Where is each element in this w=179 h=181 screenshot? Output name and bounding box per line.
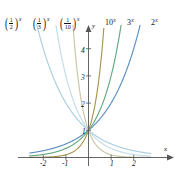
y-tick-label-3: 3: [81, 74, 85, 82]
x-tick-label-2: 2: [132, 160, 136, 168]
fraction-denominator: 3: [37, 23, 41, 30]
curve-group: [30, 24, 151, 157]
paren-open-tenth: (: [60, 18, 63, 29]
curve-label-one-third: ( 1 3 ) x: [32, 17, 49, 30]
curve-label-two: 2x: [151, 19, 158, 27]
paren-close-third: ): [43, 18, 46, 29]
y-axis-arrow: [86, 25, 92, 32]
exponent-tenth: x: [77, 17, 79, 23]
exponent-ten: x: [113, 17, 115, 23]
paren-close-half: ): [15, 18, 18, 29]
y-tick-label-2: 2: [81, 101, 85, 109]
curve-13x: [56, 26, 151, 156]
fraction-denominator: 10: [64, 23, 71, 30]
x-axis-arrow: [167, 155, 174, 161]
fraction-one-tenth: 1 10: [64, 17, 71, 30]
curve-12x: [37, 24, 151, 153]
paren-open-third: (: [33, 18, 36, 29]
base-ten: 10: [105, 18, 113, 27]
x-tick-label--1: -1: [62, 160, 68, 168]
exponent-two: x: [155, 17, 157, 23]
exponential-functions-figure: -2 -1 1 2 1 2 3 4 x y ( 1 2 ) x ( 1 3 ) …: [0, 0, 179, 181]
curve-label-one-half: ( 1 2 ) x: [4, 17, 21, 30]
curve-10x: [30, 28, 104, 157]
curve-label-three: 3x: [127, 19, 134, 27]
fraction-one-third: 1 3: [37, 17, 41, 30]
exponent-three: x: [131, 17, 133, 23]
fraction-numerator: 1: [9, 17, 13, 23]
plot-canvas: [0, 0, 179, 181]
exponent-third: x: [47, 17, 49, 23]
curve-110x: [73, 25, 151, 157]
fraction-numerator: 1: [37, 17, 41, 23]
x-tick-label--2: -2: [40, 160, 46, 168]
x-tick-label-1: 1: [110, 160, 114, 168]
x-axis-label: x: [164, 146, 167, 153]
y-tick-label-4: 4: [81, 47, 85, 55]
curve-3x: [30, 25, 121, 156]
paren-open-half: (: [5, 18, 8, 29]
exponent-half: x: [19, 17, 21, 23]
fraction-numerator: 1: [66, 17, 70, 23]
y-axis-label: y: [92, 23, 95, 30]
curve-label-ten: 10x: [105, 19, 116, 27]
y-tick-label-1: 1: [82, 128, 86, 136]
paren-close-tenth: ): [73, 18, 76, 29]
fraction-denominator: 2: [9, 23, 13, 30]
fraction-one-half: 1 2: [9, 17, 13, 30]
curve-label-one-tenth: ( 1 10 ) x: [59, 17, 79, 30]
